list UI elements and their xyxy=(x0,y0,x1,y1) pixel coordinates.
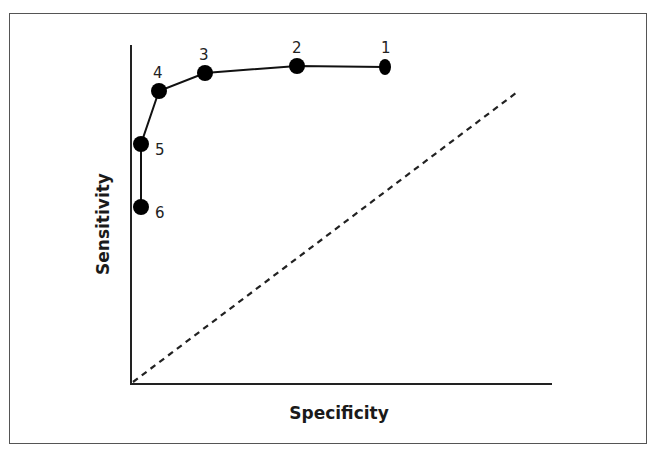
x-axis-label: Specificity xyxy=(289,403,389,423)
point-1-marker xyxy=(379,59,391,75)
point-2-label: 2 xyxy=(292,39,302,57)
point-5-label: 5 xyxy=(155,141,165,159)
point-6-marker xyxy=(133,199,149,215)
reference-diagonal xyxy=(133,93,516,382)
point-4-marker xyxy=(151,83,167,99)
point-4-label: 4 xyxy=(153,64,163,82)
y-axis-label: Sensitivity xyxy=(93,173,113,275)
point-2-marker xyxy=(289,58,305,74)
roc-curve-line xyxy=(141,66,385,207)
point-3-marker xyxy=(197,65,213,81)
point-1-label: 1 xyxy=(381,39,391,57)
point-5-marker xyxy=(133,136,149,152)
point-3-label: 3 xyxy=(199,46,209,64)
point-6-label: 6 xyxy=(155,204,165,222)
roc-diagram: 1 2 3 4 5 6 Specificity Sensitivity xyxy=(0,0,654,450)
